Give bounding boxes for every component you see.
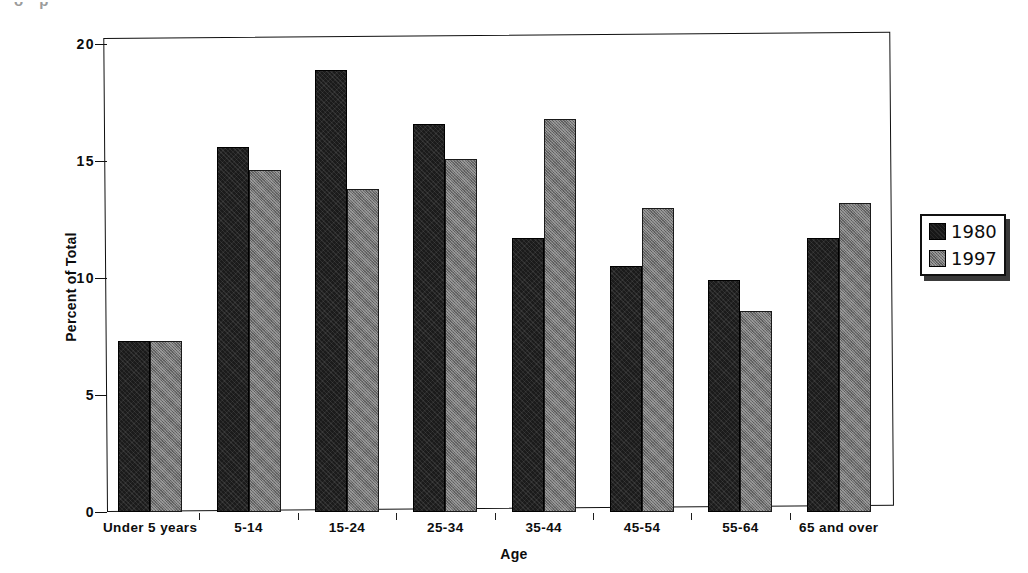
- bar-series-container: [107, 44, 894, 512]
- y-axis-title: Percent of Total: [63, 232, 79, 342]
- y-axis-tick: [95, 161, 107, 162]
- bar-group: [217, 44, 281, 512]
- x-axis-tick: [691, 513, 692, 520]
- bar: [347, 189, 379, 512]
- legend-item: 1980: [929, 221, 1004, 243]
- bar: [150, 341, 182, 512]
- y-axis-tick: [95, 278, 107, 279]
- x-axis-tick: [495, 513, 496, 520]
- bar: [445, 159, 477, 512]
- y-axis-tick: [95, 395, 107, 396]
- bar: [740, 311, 772, 512]
- bar-group: [315, 44, 379, 512]
- x-axis-tick: [199, 513, 200, 520]
- bar: [642, 208, 674, 512]
- bar-group: [708, 44, 772, 512]
- y-axis-tick: [95, 512, 107, 513]
- bar: [249, 170, 281, 512]
- x-axis: Under 5 years5-1415-2425-3435-4445-5455-…: [107, 520, 894, 546]
- x-axis-tick-label: 65 and over: [799, 520, 878, 535]
- bar-group: [118, 44, 182, 512]
- legend-box: 19801997: [920, 214, 1006, 276]
- x-axis-tick: [298, 513, 299, 520]
- plot-area: 05101520: [107, 38, 894, 512]
- legend-item-label: 1997: [951, 250, 997, 268]
- bar: [118, 341, 150, 512]
- y-axis-tick-label: 0: [49, 504, 95, 520]
- bar: [315, 70, 347, 512]
- y-axis-tick-label: 20: [49, 36, 95, 52]
- y-axis-tick: [95, 44, 107, 45]
- bar-chart-figure: Percent of Total 05101520 Under 5 years5…: [0, 0, 1028, 573]
- x-axis-title: Age: [0, 546, 1028, 562]
- bar: [610, 266, 642, 512]
- x-axis-tick-label: 45-54: [624, 520, 661, 535]
- x-axis-tick-label: Under 5 years: [103, 520, 198, 535]
- bar: [839, 203, 871, 512]
- legend-item: 1997: [929, 248, 1004, 270]
- bar: [413, 124, 445, 512]
- bar: [807, 238, 839, 512]
- y-axis-tick-label: 5: [49, 387, 95, 403]
- bar: [217, 147, 249, 512]
- bar-group: [512, 44, 576, 512]
- bar: [512, 238, 544, 512]
- bar: [544, 119, 576, 512]
- x-axis-tick-label: 25-34: [427, 520, 464, 535]
- x-axis-tick-label: 5-14: [234, 520, 263, 535]
- x-axis-tick-label: 35-44: [525, 520, 562, 535]
- bar-group: [807, 44, 871, 512]
- bar: [708, 280, 740, 512]
- bar-group: [413, 44, 477, 512]
- x-axis-tick: [593, 513, 594, 520]
- gray-swatch: [929, 250, 946, 267]
- x-axis-tick-label: 15-24: [329, 520, 366, 535]
- x-axis-tick-label: 55-64: [722, 520, 759, 535]
- x-axis-tick: [396, 513, 397, 520]
- dark-swatch: [929, 223, 946, 240]
- y-axis-tick-label: 10: [49, 270, 95, 286]
- x-axis-tick: [790, 513, 791, 520]
- bar-group: [610, 44, 674, 512]
- legend: 19801997: [920, 214, 1006, 276]
- y-axis-tick-label: 15: [49, 153, 95, 169]
- legend-item-label: 1980: [951, 223, 997, 241]
